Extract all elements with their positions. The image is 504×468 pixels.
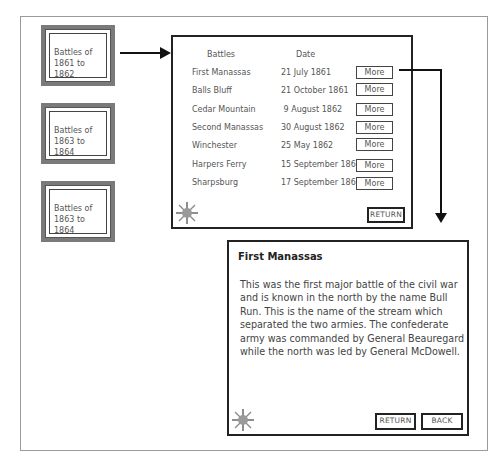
menu-item-1861-1862[interactable]: Battles of 1861 to 1862 xyxy=(41,25,115,86)
arrow-line xyxy=(120,52,162,54)
more-button-harpers-ferry[interactable]: More xyxy=(356,159,393,172)
more-button-sharpsburg[interactable]: More xyxy=(356,177,393,190)
battle-date: 17 September 1862 xyxy=(281,178,361,187)
back-button[interactable]: BACK xyxy=(421,413,463,430)
menu-item-1863-1864[interactable]: Battles of 1863 to 1864 xyxy=(41,103,115,164)
battle-name: Winchester xyxy=(192,141,237,150)
more-button-winchester[interactable]: More xyxy=(356,138,393,151)
return-button[interactable]: RETURN xyxy=(367,207,405,223)
menu-item-label: Battles of 1861 to 1862 xyxy=(49,33,107,78)
battle-date: 21 July 1861 xyxy=(281,68,331,77)
menu-item-1863-1864-b[interactable]: Battles of 1863 to 1864 xyxy=(41,181,115,242)
menu-item-label: Battles of 1863 to 1864 xyxy=(49,111,107,156)
detail-title: First Manassas xyxy=(238,251,323,262)
column-header-battles: Battles xyxy=(207,50,235,59)
connector-line xyxy=(399,69,442,71)
battle-name: Sharpsburg xyxy=(192,178,238,187)
battle-detail-panel: First Manassas This was the first major … xyxy=(227,240,469,436)
sun-icon[interactable] xyxy=(176,202,198,224)
column-header-date: Date xyxy=(296,50,315,59)
battle-list-panel: Battles Date First Manassas 21 July 1861… xyxy=(171,35,413,229)
more-button-second-manassas[interactable]: More xyxy=(356,121,393,134)
arrow-down-icon xyxy=(435,213,447,223)
battle-date: 15 September 1862 xyxy=(281,160,361,169)
more-button-first-manassas[interactable]: More xyxy=(356,66,393,79)
detail-body: This was the first major battle of the c… xyxy=(240,278,466,358)
battle-date: 21 October 1861 xyxy=(281,86,349,95)
return-button[interactable]: RETURN xyxy=(375,413,416,430)
more-button-balls-bluff[interactable]: More xyxy=(356,83,393,96)
battle-date: 25 May 1862 xyxy=(281,141,333,150)
more-button-cedar-mountain[interactable]: More xyxy=(356,103,393,116)
battle-name: Harpers Ferry xyxy=(192,160,246,169)
menu-item-label: Battles of 1863 to 1864 xyxy=(49,189,107,234)
battle-name: Second Manassas xyxy=(192,123,263,132)
sun-icon[interactable] xyxy=(232,409,254,431)
battle-name: First Manassas xyxy=(192,68,251,77)
arrow-right-icon xyxy=(160,47,171,59)
connector-line-vertical xyxy=(440,69,442,215)
battle-name: Cedar Mountain xyxy=(192,105,256,114)
battle-name: Balls Bluff xyxy=(192,86,232,95)
battle-date: 9 August 1862 xyxy=(281,105,342,114)
battle-date: 30 August 1862 xyxy=(281,123,345,132)
